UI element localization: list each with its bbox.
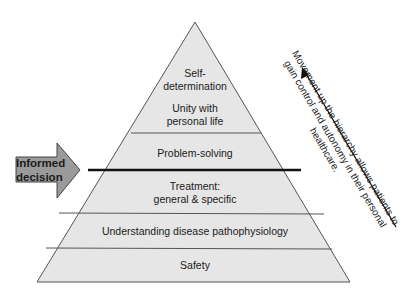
level-safety: Safety — [120, 259, 270, 272]
level-treatment: Treatment: general & specific — [120, 180, 270, 206]
informed-decision-label: Informed decision — [16, 156, 58, 184]
level-problem-solving: Problem-solving — [120, 147, 270, 160]
level-label: Self- — [145, 67, 245, 80]
level-label: general & specific — [120, 193, 270, 206]
level-label: personal life — [145, 115, 245, 128]
arrow-label-line: decision — [16, 170, 58, 184]
level-label: Unity with — [145, 102, 245, 115]
level-unity-personal-life: Unity with personal life — [145, 102, 245, 128]
level-understanding-disease: Understanding disease pathophysiology — [70, 225, 320, 238]
level-label: Treatment: — [120, 180, 270, 193]
level-label: determination — [145, 80, 245, 93]
arrow-label-line: Informed — [16, 156, 58, 170]
level-self-determination: Self- determination — [145, 67, 245, 93]
